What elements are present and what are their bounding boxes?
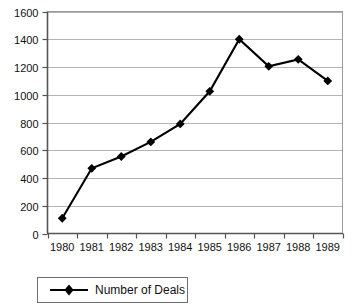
x-tick-label-1984: 1984 <box>168 241 192 253</box>
line-chart-figure: 02004006008001000120014001600 1980198119… <box>0 0 354 308</box>
x-axis-tick-labels: 1980198119821983198419851986198719881989 <box>50 241 340 253</box>
plot-area-background <box>47 11 343 233</box>
y-tick-label-200: 200 <box>20 201 38 213</box>
legend: Number of Deals <box>38 278 188 303</box>
x-tick-label-1982: 1982 <box>109 241 133 253</box>
legend-entry-label: Number of Deals <box>95 283 185 297</box>
y-tick-label-1200: 1200 <box>14 62 38 74</box>
x-tick-label-1985: 1985 <box>198 241 222 253</box>
x-tick-label-1988: 1988 <box>286 241 310 253</box>
y-axis-tick-labels: 02004006008001000120014001600 <box>14 7 38 241</box>
x-tick-label-1987: 1987 <box>257 241 281 253</box>
y-tick-label-1000: 1000 <box>14 90 38 102</box>
y-tick-label-1400: 1400 <box>14 34 38 46</box>
x-tick-label-1983: 1983 <box>139 241 163 253</box>
x-tick-label-1986: 1986 <box>227 241 251 253</box>
y-tick-label-0: 0 <box>32 229 38 241</box>
x-tick-label-1980: 1980 <box>50 241 74 253</box>
x-tick-label-1981: 1981 <box>80 241 104 253</box>
x-tick-label-1989: 1989 <box>316 241 340 253</box>
y-tick-label-1600: 1600 <box>14 7 38 19</box>
chart-canvas: 02004006008001000120014001600 1980198119… <box>0 0 354 308</box>
y-tick-label-400: 400 <box>20 173 38 185</box>
y-tick-label-600: 600 <box>20 145 38 157</box>
y-tick-label-800: 800 <box>20 118 38 130</box>
